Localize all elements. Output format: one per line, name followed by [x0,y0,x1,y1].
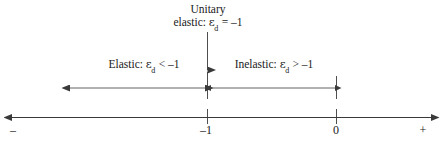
unitary-prefix: elastic: [173,16,208,28]
epsilon-subscript: d [151,66,155,75]
elasticity-number-line-figure: Unitary elastic: εd = –1 Elastic: εd < –… [0,0,442,143]
unitary-relation: = –1 [219,16,243,28]
inelastic-prefix: Inelastic: [235,58,280,70]
axis-plus-sign: + [420,124,427,137]
unitary-elastic-line2: elastic: εd = –1 [173,16,242,33]
elastic-region-label: Elastic: εd < –1 [108,58,179,75]
elastic-relation: < –1 [156,58,180,70]
inelastic-relation: > –1 [290,58,314,70]
axis-minus-sign: – [10,124,16,137]
axis-tick-label-zero: 0 [333,124,339,137]
epsilon-subscript: d [214,24,218,33]
axis-tick-label-negative-one: –1 [200,124,212,137]
inelastic-region-label: Inelastic: εd > –1 [235,58,314,75]
epsilon-subscript: d [285,66,289,75]
elastic-prefix: Elastic: [108,58,145,70]
unitary-elastic-label: Unitary elastic: εd = –1 [173,3,242,33]
